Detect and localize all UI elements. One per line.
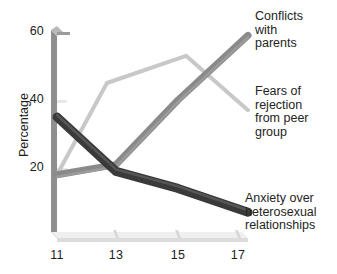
series-line-fears-of-rejection [57,56,248,175]
series-label-anxiety-over-heterosexual-relationships: Anxiety over heterosexual relationships [245,192,317,233]
series-label-fears-of-rejection: Fears of rejection from peer group [255,85,309,139]
chart-container: Percentage 60 40 20 11 13 15 17 Conflict… [0,0,337,274]
series-label-line: heterosexual [245,206,317,220]
x-tick-label-15: 15 [163,248,193,262]
series-label-line: rejection [255,99,309,113]
series-label-conflicts-with-parents: Conflicts with parents [255,10,303,51]
series-label-line: Anxiety over [245,192,317,206]
series-line-conflicts-with-parents [57,35,248,176]
series-label-line: parents [255,37,303,51]
x-tick-label-11: 11 [42,248,72,262]
series-label-line: with [255,24,303,38]
x-axis [51,230,248,242]
series-label-line: from peer [255,112,309,126]
x-tick-label-17: 17 [223,248,253,262]
y-tick-label-60: 60 [10,24,44,38]
x-tick-label-13: 13 [101,248,131,262]
y-tick-label-40: 40 [10,92,44,106]
y-tick-label-20: 20 [10,160,44,174]
series-label-line: group [255,126,309,140]
series-label-line: relationships [245,219,317,233]
series-label-line: Fears of [255,85,309,99]
series-label-line: Conflicts [255,10,303,24]
